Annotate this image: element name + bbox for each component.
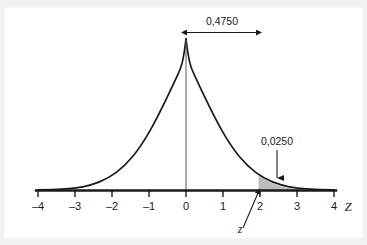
tick-label-1: 1: [220, 200, 226, 212]
tick-label-4: 4: [331, 200, 337, 212]
center-area-label: 0,4750: [206, 15, 238, 27]
z-marker-label: z: [237, 222, 243, 236]
normal-distribution-figure: –4 –3 –2 –1 0 1 2 3 4 Z 0,4750 0,0250 z: [0, 0, 367, 245]
tick-label-neg2: –2: [106, 200, 118, 212]
tick-label-0: 0: [183, 200, 189, 212]
tick-label-neg4: –4: [32, 200, 44, 212]
normal-curve-chart: –4 –3 –2 –1 0 1 2 3 4 Z 0,4750 0,0250 z: [0, 0, 367, 245]
tick-label-2: 2: [257, 200, 263, 212]
x-axis-tick-labels: –4 –3 –2 –1 0 1 2 3 4: [32, 200, 337, 212]
x-axis-name-label: Z: [344, 199, 352, 214]
tick-label-3: 3: [294, 200, 300, 212]
tail-area-label: 0,0250: [261, 135, 293, 147]
z-marker-arrow: [243, 193, 258, 228]
tick-label-neg1: –1: [143, 200, 155, 212]
tick-label-neg3: –3: [69, 200, 81, 212]
